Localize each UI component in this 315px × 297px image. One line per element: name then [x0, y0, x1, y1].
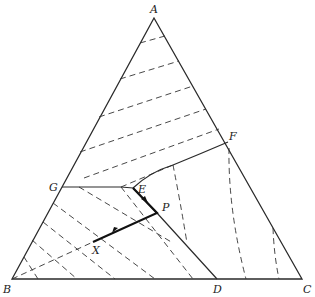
label-D: D [212, 283, 222, 296]
triangle-outline [12, 18, 302, 279]
ternary-diagram: A B C D E F G P X [0, 0, 315, 297]
label-C: C [303, 283, 312, 296]
label-X: X [91, 244, 101, 257]
phase-boundaries [62, 142, 228, 279]
label-F: F [228, 130, 237, 143]
label-G: G [49, 181, 58, 194]
tie-lines-upper [80, 36, 219, 187]
label-B: B [2, 283, 11, 296]
tie-lines-right [173, 148, 279, 279]
label-E: E [137, 183, 146, 196]
crystallization-path [93, 188, 157, 242]
label-A: A [149, 3, 158, 16]
label-P: P [161, 201, 170, 214]
